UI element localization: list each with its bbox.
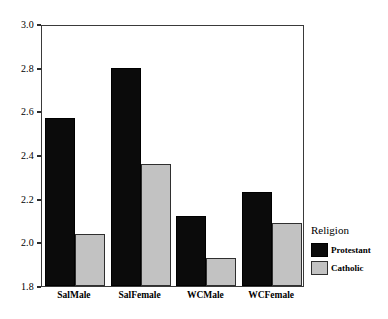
- plot-area: [41, 25, 304, 287]
- x-axis-tick-label: SalFemale: [119, 289, 161, 301]
- bar-wcfemale-protestant: [242, 192, 272, 286]
- y-axis: 1.82.02.22.42.62.83.0: [0, 0, 41, 319]
- legend-swatch-protestant: [311, 243, 328, 257]
- legend-title: Religion: [311, 224, 388, 237]
- bar-wcmale-protestant: [176, 216, 206, 286]
- y-axis-tick-label: 1.8: [21, 282, 37, 292]
- bar-salfemale-catholic: [141, 164, 171, 286]
- bar-salmale-catholic: [75, 234, 105, 286]
- legend-label-catholic: Catholic: [331, 263, 364, 274]
- x-axis-tick-label: SalMale: [57, 289, 90, 301]
- bar-chart-figure: 1.82.02.22.42.62.83.0 SalMaleSalFemaleWC…: [0, 0, 388, 319]
- legend-item-protestant: Protestant: [311, 243, 388, 257]
- bar-salfemale-protestant: [111, 68, 141, 286]
- y-axis-tick-label: 2.6: [21, 107, 37, 117]
- legend-label-protestant: Protestant: [331, 245, 371, 256]
- y-axis-tick-label: 2.0: [21, 238, 37, 248]
- y-axis-tick-label: 2.4: [21, 151, 37, 161]
- x-axis: SalMaleSalFemaleWCMaleWCFemale: [41, 289, 304, 309]
- y-axis-tick-label: 2.2: [21, 195, 37, 205]
- x-axis-tick-label: WCFemale: [248, 289, 294, 301]
- legend-item-catholic: Catholic: [311, 261, 388, 275]
- legend-swatch-catholic: [311, 261, 328, 275]
- y-axis-tick-label: 3.0: [21, 20, 37, 30]
- x-axis-tick-label: WCMale: [187, 289, 224, 301]
- y-axis-tick-label: 2.8: [21, 64, 37, 74]
- legend: Religion Protestant Catholic: [311, 224, 388, 279]
- bar-salmale-protestant: [45, 118, 75, 286]
- bar-wcmale-catholic: [206, 258, 236, 286]
- bar-wcfemale-catholic: [272, 223, 302, 286]
